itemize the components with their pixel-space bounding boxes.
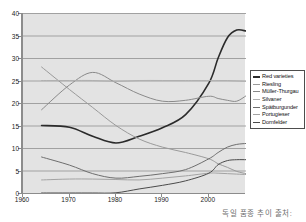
x-tick-label: 2000: [201, 196, 215, 204]
legend-item-label: Riesling: [262, 81, 281, 88]
legend-swatch-icon: [253, 99, 260, 100]
legend-item-sp-tburgunder[interactable]: Spätburgunder: [252, 103, 302, 111]
legend-swatch-icon: [253, 91, 260, 92]
x-tick-label: 1960: [15, 196, 29, 204]
legend-item-label: Portugieser: [262, 111, 290, 118]
legend-swatch-icon: [253, 107, 260, 108]
chart-legend[interactable]: Red varietiesRieslingMüller-ThurgauSilva…: [250, 70, 305, 129]
legend-item-label: Silvaner: [262, 96, 281, 103]
x-tick-label: 1980: [108, 196, 122, 204]
legend-swatch-icon: [253, 114, 260, 115]
legend-item-label: Müller-Thurgau: [262, 88, 299, 95]
chart-figure: 0510152025303540 19601970198019902000 Re…: [0, 0, 306, 222]
legend-item-riesling[interactable]: Riesling: [252, 81, 302, 89]
legend-item-m-ller-thurgau[interactable]: Müller-Thurgau: [252, 88, 302, 96]
x-tick-label: 1970: [61, 196, 75, 204]
x-axis-labels: 19601970198019902000: [0, 196, 306, 208]
legend-item-silvaner[interactable]: Silvaner: [252, 96, 302, 104]
legend-item-red-varieties[interactable]: Red varieties: [252, 73, 302, 81]
legend-item-label: Red varieties: [262, 73, 293, 80]
legend-item-label: Dornfelder: [262, 119, 287, 126]
legend-swatch-icon: [253, 84, 260, 85]
legend-swatch-icon: [253, 76, 260, 78]
legend-item-label: Spätburgunder: [262, 104, 298, 111]
figure-caption: 독일 품종 추이 출처:: [222, 209, 292, 219]
legend-swatch-icon: [253, 122, 260, 124]
legend-item-dornfelder[interactable]: Dornfelder: [252, 119, 302, 127]
legend-item-portugieser[interactable]: Portugieser: [252, 111, 302, 119]
x-tick-label: 1990: [154, 196, 168, 204]
